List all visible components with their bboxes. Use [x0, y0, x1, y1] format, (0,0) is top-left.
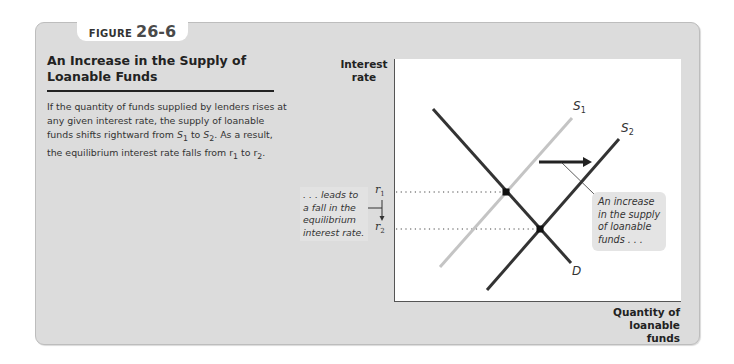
s1-label: S1	[573, 99, 586, 115]
r2-tick-label: r2	[375, 220, 385, 235]
d-label: D	[572, 264, 581, 278]
r1-tick-label: r1	[375, 183, 385, 198]
demand-curve-d	[433, 109, 571, 263]
annotation-supply-increase: An increase in the supply of loanable fu…	[592, 192, 666, 251]
equilibrium-point-2	[537, 226, 544, 233]
s2-label: S2	[621, 121, 634, 137]
shift-arrow-head	[583, 157, 592, 167]
annotation-interest-fall: . . . leads to a fall in the equilibrium…	[300, 187, 368, 241]
annotation-leader-line	[561, 162, 594, 194]
equilibrium-point-1	[503, 189, 510, 196]
chart-lines	[0, 0, 734, 364]
